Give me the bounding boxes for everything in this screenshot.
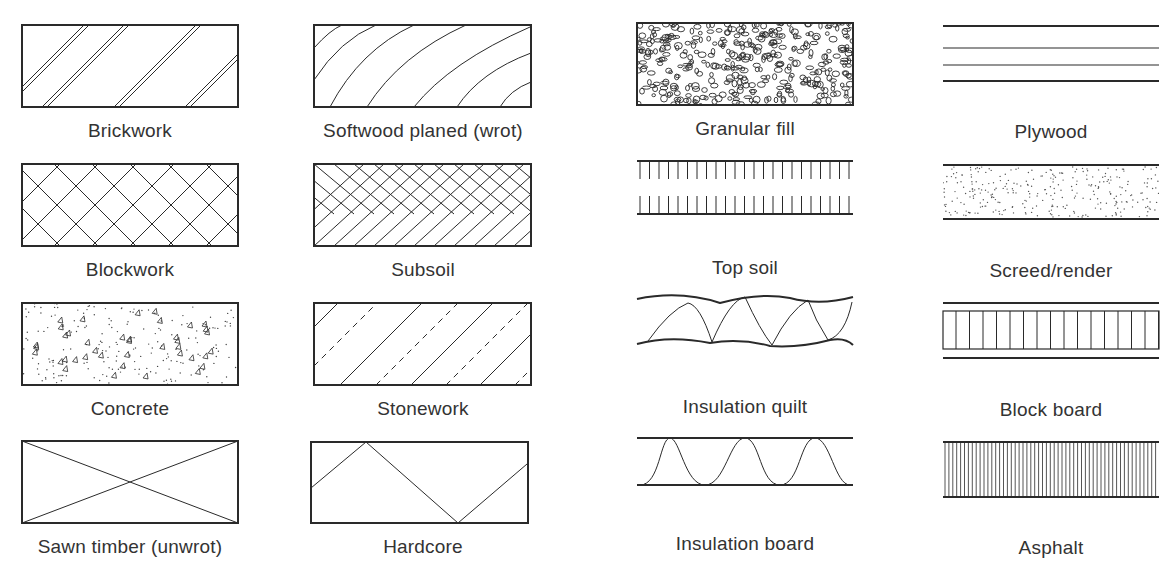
plywood-symbol: [943, 26, 1159, 81]
label-blockwork: Blockwork: [86, 259, 174, 281]
concrete-symbol: [22, 303, 238, 386]
label-plywood: Plywood: [1014, 121, 1087, 143]
sawn-timber-symbol: [22, 441, 238, 523]
label-subsoil: Subsoil: [391, 259, 455, 281]
asphalt-symbol: [943, 442, 1159, 497]
hardcore-symbol: [311, 442, 528, 523]
insulation-quilt-symbol: [637, 295, 853, 346]
label-asphalt: Asphalt: [1019, 537, 1084, 559]
label-insulation-quilt: Insulation quilt: [683, 396, 808, 418]
label-granular-fill: Granular fill: [695, 118, 795, 140]
label-insulation-board: Insulation board: [676, 533, 814, 555]
subsoil-symbol: [274, 164, 664, 246]
granular-fill-symbol: [634, 20, 855, 107]
label-brickwork: Brickwork: [88, 120, 172, 142]
softwood-symbol: [314, 25, 531, 107]
label-sawn-timber: Sawn timber (unwrot): [38, 536, 223, 558]
hatching-symbols-diagram: Brickwork Softwood planed (wrot) Granula…: [0, 0, 1169, 573]
label-concrete: Concrete: [91, 398, 170, 420]
label-block-board: Block board: [1000, 399, 1103, 421]
label-stonework: Stonework: [377, 398, 469, 420]
screed-render-symbol: [942, 165, 1159, 219]
insulation-board-symbol: [637, 438, 853, 485]
label-hardcore: Hardcore: [383, 536, 463, 558]
label-screed: Screed/render: [989, 260, 1112, 282]
brickwork-symbol: [22, 25, 272, 107]
label-softwood: Softwood planed (wrot): [323, 120, 523, 142]
blockwork-symbol: [0, 164, 364, 246]
top-soil-symbol: [637, 161, 853, 214]
block-board-symbol: [943, 303, 1159, 358]
symbols-drawing: [0, 0, 1169, 573]
label-top-soil: Top soil: [712, 257, 778, 279]
stonework-symbol: [314, 303, 597, 385]
